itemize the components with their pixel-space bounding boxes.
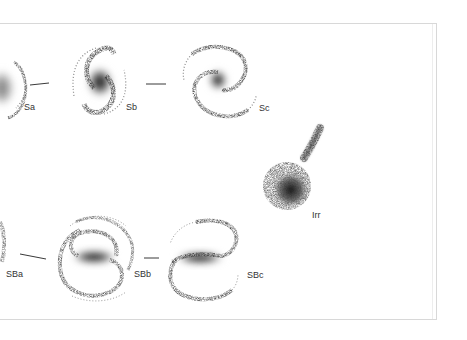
label-sa: Sa — [24, 102, 35, 112]
galaxy-sba — [0, 222, 4, 262]
galaxy-irr — [263, 128, 320, 210]
label-sb: Sb — [126, 102, 137, 112]
galaxy-sbb — [60, 216, 133, 301]
galaxy-sa — [0, 62, 26, 118]
label-sbb: SBb — [134, 269, 151, 279]
galaxy-sb — [73, 48, 126, 114]
galaxy-illustrations — [0, 0, 467, 340]
galaxy-sbc — [170, 221, 238, 300]
galaxy-sc — [183, 47, 256, 116]
connector-sa-sb — [30, 83, 49, 85]
label-sc: Sc — [259, 103, 270, 113]
label-irr: Irr — [312, 210, 321, 220]
label-sba: SBa — [6, 269, 23, 279]
label-sbc: SBc — [247, 270, 264, 280]
connector-sba-sbb — [20, 254, 46, 259]
